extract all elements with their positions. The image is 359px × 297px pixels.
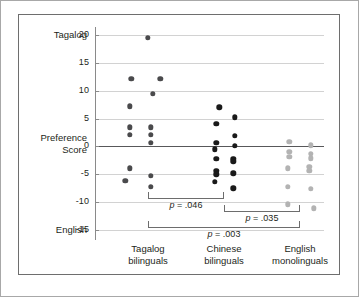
gridline bbox=[95, 119, 324, 120]
x-axis-label-line2: monolinguals bbox=[252, 255, 348, 267]
chart-panel: 20151050-5-10-15TagalogEnglishPreference… bbox=[18, 14, 340, 275]
data-point bbox=[148, 125, 153, 130]
zero-reference-line bbox=[95, 146, 324, 148]
data-point bbox=[212, 179, 217, 184]
data-point bbox=[287, 154, 292, 159]
data-point bbox=[287, 139, 292, 144]
y-axis-tick-label: 5 bbox=[59, 113, 89, 123]
x-axis-label-line1: English bbox=[252, 243, 348, 255]
data-point bbox=[122, 178, 127, 183]
data-point bbox=[148, 132, 153, 137]
data-point bbox=[127, 132, 132, 137]
data-point bbox=[212, 147, 217, 152]
data-point bbox=[230, 186, 235, 191]
data-point bbox=[308, 155, 313, 160]
data-point bbox=[217, 105, 222, 110]
gridline bbox=[95, 35, 324, 36]
y-axis-title: PreferenceScore bbox=[19, 132, 87, 155]
plot-area: 20151050-5-10-15TagalogEnglishPreference… bbox=[19, 15, 341, 276]
gridline bbox=[95, 63, 324, 64]
figure-root: 20151050-5-10-15TagalogEnglishPreference… bbox=[0, 0, 359, 297]
data-point bbox=[148, 173, 153, 178]
significance-bracket bbox=[224, 205, 300, 212]
data-point bbox=[214, 140, 219, 145]
data-point bbox=[127, 104, 132, 109]
y-axis-tick-label: 10 bbox=[59, 85, 89, 95]
data-point bbox=[148, 184, 153, 189]
data-point bbox=[129, 76, 134, 81]
significance-bracket bbox=[148, 221, 300, 228]
y-axis-line bbox=[95, 27, 96, 240]
data-point bbox=[232, 133, 237, 138]
significance-bracket bbox=[148, 192, 224, 199]
y-axis-title-line2: Score bbox=[19, 144, 87, 156]
data-point bbox=[145, 35, 150, 40]
data-point bbox=[232, 143, 237, 148]
y-axis-title-line1: Preference bbox=[19, 132, 87, 144]
data-point bbox=[285, 165, 290, 170]
x-axis-category-label: Englishmonolinguals bbox=[252, 243, 348, 267]
data-point bbox=[214, 172, 219, 177]
data-point bbox=[311, 206, 316, 211]
gridline bbox=[95, 91, 324, 92]
gridline bbox=[95, 174, 324, 175]
data-point bbox=[127, 165, 132, 170]
data-point bbox=[285, 184, 290, 189]
data-point bbox=[150, 91, 155, 96]
data-point bbox=[127, 125, 132, 130]
p-value-annotation: p = .003 bbox=[179, 229, 269, 239]
y-axis-pole-label-low: English bbox=[19, 224, 87, 235]
data-point bbox=[306, 168, 311, 173]
y-axis-tick-label: -5 bbox=[59, 168, 89, 178]
data-point bbox=[214, 121, 219, 126]
y-axis-tick-label: -10 bbox=[59, 196, 89, 206]
y-axis-tick-label: 15 bbox=[59, 57, 89, 67]
data-point bbox=[157, 76, 162, 81]
y-axis-pole-label-high: Tagalog bbox=[19, 29, 87, 40]
data-point bbox=[308, 186, 313, 191]
data-point bbox=[230, 159, 235, 164]
data-point bbox=[214, 156, 219, 161]
p-value-annotation: p = .046 bbox=[141, 200, 231, 210]
